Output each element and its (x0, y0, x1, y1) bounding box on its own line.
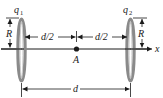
right-half-distance-label: d/2 (95, 31, 108, 42)
total-distance-label: d (73, 83, 79, 94)
svg-text:2: 2 (129, 9, 132, 16)
ring-1 (1, 19, 25, 81)
ring-2-charge-label: q 2 (123, 4, 132, 16)
ring-2 (125, 19, 148, 81)
ring-1-radius-label: R (5, 28, 12, 39)
ring-2-radius-label: R (137, 28, 144, 39)
two-ring-diagram: x q 1 q 2 R R d/2 (0, 0, 163, 98)
svg-text:q: q (123, 4, 128, 15)
svg-text:q: q (14, 4, 19, 15)
point-a-label: A (72, 54, 80, 65)
total-distance-dimension: d (22, 83, 131, 97)
half-distance-dimensions: d/2 d/2 (25, 31, 127, 42)
x-axis-label: x (154, 43, 160, 54)
ring-1-charge-label: q 1 (14, 4, 23, 16)
left-half-distance-label: d/2 (41, 31, 54, 42)
svg-text:1: 1 (20, 9, 23, 16)
